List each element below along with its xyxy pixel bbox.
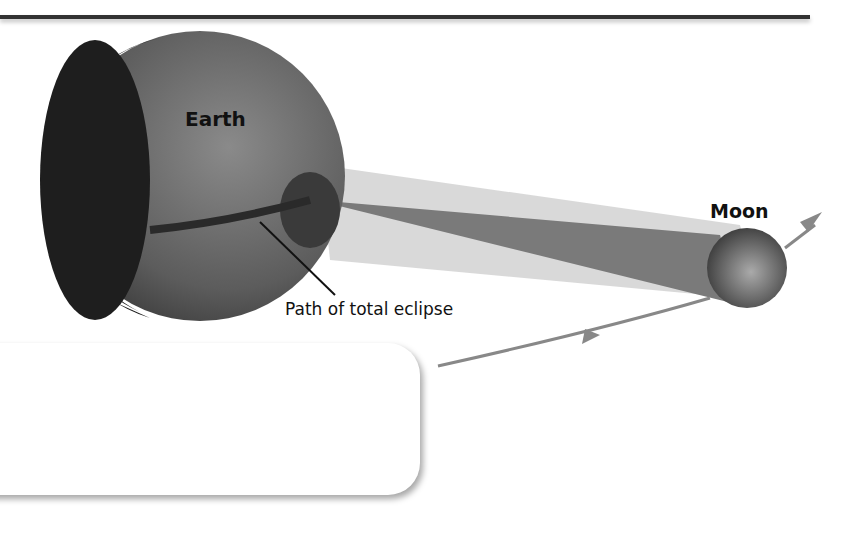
moon (707, 228, 787, 308)
path-label: Path of total eclipse (285, 299, 453, 319)
moon-orbit (438, 298, 710, 366)
sun-panel (0, 343, 420, 495)
sun-panel-graphic (0, 343, 440, 503)
earth-label: Earth (185, 107, 246, 131)
earth (40, 31, 345, 321)
moon-label: Moon (710, 200, 769, 222)
